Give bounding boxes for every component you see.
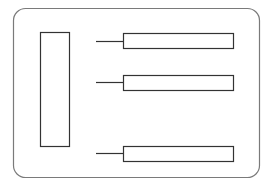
left-vertical-block bbox=[41, 33, 70, 147]
horizontal-bar-3 bbox=[124, 147, 234, 162]
horizontal-bar-1 bbox=[124, 34, 234, 49]
bar-group bbox=[96, 34, 234, 162]
horizontal-bar-2 bbox=[124, 76, 234, 91]
diagram-canvas bbox=[0, 0, 275, 186]
